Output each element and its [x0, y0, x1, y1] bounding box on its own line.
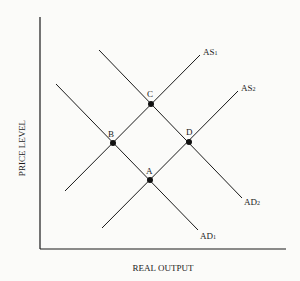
point-a-label: A	[146, 166, 153, 176]
point-d	[186, 139, 192, 145]
ad2-curve	[99, 50, 242, 198]
ad1-label: AD1	[200, 231, 216, 241]
as1-label: AS1	[203, 47, 218, 57]
as2-label: AS2	[241, 83, 256, 93]
point-c-label: C	[147, 89, 153, 99]
as-ad-diagram: A B C D AS1 AS2 AD2 AD1 REAL OUTPUT PRIC…	[0, 0, 300, 281]
as2-curve	[102, 91, 238, 228]
ad2-label: AD2	[244, 197, 260, 207]
point-a	[147, 177, 153, 183]
x-axis-title: REAL OUTPUT	[133, 263, 194, 273]
point-b	[110, 140, 116, 146]
as1-curve	[65, 55, 200, 191]
ad1-curve	[56, 84, 198, 230]
point-b-label: B	[108, 129, 114, 139]
y-axis-title: PRICE LEVEL	[17, 120, 27, 176]
point-d-label: D	[186, 127, 193, 137]
point-c	[148, 101, 154, 107]
